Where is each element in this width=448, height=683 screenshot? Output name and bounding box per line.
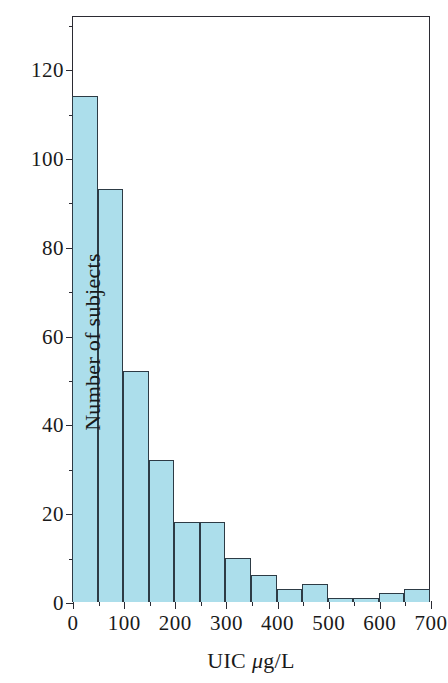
histogram-bar [379,593,405,602]
x-axis-tick [380,601,381,609]
histogram-bar [328,598,354,602]
y-axis-tick-label: 80 [42,237,64,258]
y-axis-tick-label: 120 [31,60,64,81]
histogram-bar [277,589,303,602]
y-axis-title: Number of subjects [80,253,106,431]
y-axis-tick-label: 40 [42,415,64,436]
x-axis-tick [278,601,279,609]
histogram-bar [404,589,430,602]
x-axis-tick-label: 400 [261,613,294,634]
histogram-bar [149,460,175,602]
x-axis-title: UIC μg/L [72,648,430,674]
histogram-bar [353,598,379,602]
y-axis-tick [66,603,73,604]
x-axis-tick-label: 500 [312,613,345,634]
histogram-bar [225,558,251,602]
x-axis-tick-label: 100 [108,613,141,634]
x-axis-tick-label: 200 [159,613,192,634]
y-axis-tick-label: 20 [42,504,64,525]
x-axis-tick [226,601,227,609]
x-axis-tick [124,601,125,609]
x-axis-tick [175,601,176,609]
histogram-bar [200,522,226,602]
histogram-bar [123,371,149,602]
y-axis-tick-label: 0 [53,593,64,614]
y-axis-tick-label: 60 [42,326,64,347]
x-axis-tick-label: 300 [210,613,243,634]
y-axis-tick-label: 100 [31,149,64,170]
x-axis-tick-label: 700 [415,613,448,634]
x-axis-tick-label: 0 [68,613,79,634]
histogram-bar [174,522,200,602]
x-axis-tick [431,601,432,609]
histogram-bar [302,584,328,602]
x-axis-tick [73,601,74,609]
bars-layer [72,16,430,602]
x-axis-tick [329,601,330,609]
histogram-bar [251,575,277,602]
mu-symbol: μ [252,648,263,673]
x-axis-tick-label: 600 [363,613,396,634]
